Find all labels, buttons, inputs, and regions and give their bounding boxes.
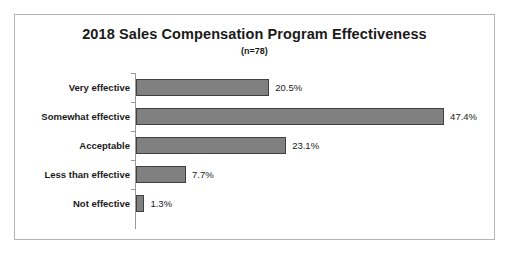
bar-rows: Very effective 20.5% Somewhat effective … [15, 73, 496, 229]
bar-value-label: 1.3% [150, 195, 172, 212]
chart-title: 2018 Sales Compensation Program Effectiv… [15, 26, 494, 42]
axis-tick [131, 160, 135, 161]
chart-frame: 2018 Sales Compensation Program Effectiv… [14, 14, 495, 240]
axis-tick [131, 189, 135, 190]
bar-row: Less than effective 7.7% [15, 160, 496, 189]
bar-value-label: 47.4% [450, 108, 477, 125]
bar[interactable] [136, 79, 269, 96]
bar[interactable] [136, 195, 144, 212]
chart-subtitle: (n=78) [15, 46, 494, 56]
axis-tick [131, 131, 135, 132]
bar-value-label: 20.5% [275, 79, 302, 96]
bar-value-label: 23.1% [292, 137, 319, 154]
bar[interactable] [136, 108, 444, 125]
bar-row: Somewhat effective 47.4% [15, 102, 496, 131]
category-label: Very effective [15, 73, 130, 102]
bar[interactable] [136, 137, 286, 154]
chart-screenshot: 2018 Sales Compensation Program Effectiv… [0, 0, 509, 256]
axis-tick [131, 102, 135, 103]
category-label: Less than effective [15, 160, 130, 189]
bar-row: Not effective 1.3% [15, 189, 496, 218]
category-label: Acceptable [15, 131, 130, 160]
bar-row: Very effective 20.5% [15, 73, 496, 102]
bar-value-label: 7.7% [192, 166, 214, 183]
category-label: Not effective [15, 189, 130, 218]
category-label: Somewhat effective [15, 102, 130, 131]
bar[interactable] [136, 166, 186, 183]
bar-row: Acceptable 23.1% [15, 131, 496, 160]
plot-area: Very effective 20.5% Somewhat effective … [15, 73, 496, 235]
axis-tick [131, 73, 135, 74]
